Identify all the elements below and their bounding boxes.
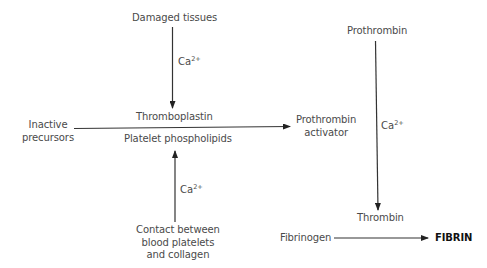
node-prothrombin-activator: Prothrombin activator xyxy=(296,114,356,139)
cofactor-label-bottom: Ca2+ xyxy=(180,184,203,195)
node-inactive-precursors: Inactive precursors xyxy=(22,119,74,144)
node-thrombin: Thrombin xyxy=(357,212,404,225)
cofactor-label-top: Ca2+ xyxy=(178,56,201,67)
node-fibrin: FIBRIN xyxy=(435,232,472,245)
node-thromboplastin: Thromboplastin xyxy=(136,111,213,124)
cofactor-label-right: Ca2+ xyxy=(381,120,404,131)
node-contact-platelets-collagen: Contact between blood platelets and coll… xyxy=(136,224,220,262)
node-fibrinogen: Fibrinogen xyxy=(280,232,331,245)
arrow-prothrombin-to-thrombin xyxy=(376,41,379,210)
node-platelet-phospholipids: Platelet phospholipids xyxy=(124,133,232,146)
node-damaged-tissues: Damaged tissues xyxy=(132,12,217,25)
arrow-precursors-to-activator xyxy=(74,127,290,129)
node-prothrombin: Prothrombin xyxy=(347,25,407,38)
